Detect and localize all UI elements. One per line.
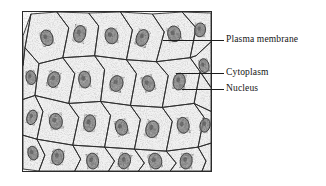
micrograph-frame [22,11,212,172]
micrograph-image [23,12,211,171]
label-nucleus: Nucleus [226,83,258,94]
leader-line-nucleus [182,89,224,90]
label-plasma-membrane: Plasma membrane [226,34,298,45]
figure-canvas: Plasma membrane Cytoplasm Nucleus [0,0,326,186]
leader-line-plasma-membrane [163,40,224,41]
leader-line-cytoplasm [176,73,224,74]
label-cytoplasm: Cytoplasm [226,67,269,78]
